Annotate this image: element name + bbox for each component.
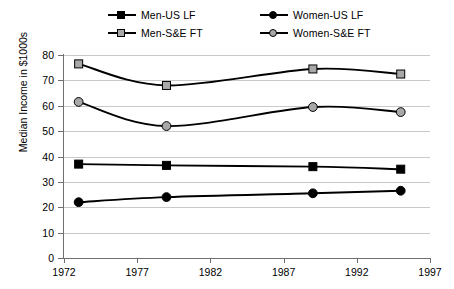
data-point-marker [397,70,405,78]
data-point-marker [162,161,170,169]
data-series [75,160,405,173]
data-series [74,98,405,131]
series-line [79,102,401,126]
series-layer [0,0,454,289]
data-point-marker [162,81,170,89]
data-series [74,186,405,206]
data-point-marker [309,65,317,73]
data-point-marker [308,189,317,198]
data-point-marker [397,165,405,173]
series-line [79,64,401,86]
data-point-marker [396,108,405,117]
data-point-marker [75,60,83,68]
data-point-marker [396,186,405,195]
data-point-marker [308,103,317,112]
data-point-marker [162,193,171,202]
series-line [79,191,401,202]
data-point-marker [162,122,171,131]
chart-container: Men-US LFWomen-US LFMen-S&E FTWomen-S&E … [0,0,454,289]
data-point-marker [74,98,83,107]
data-point-marker [74,198,83,207]
series-line [79,164,401,169]
data-point-marker [75,160,83,168]
data-point-marker [309,163,317,171]
data-series [75,60,405,90]
